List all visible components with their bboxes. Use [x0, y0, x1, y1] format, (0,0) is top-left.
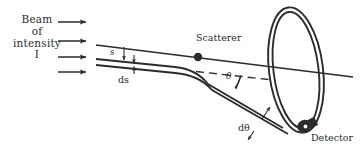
dashed-axis-icon	[196, 72, 273, 81]
scattered-ray-upper	[96, 59, 283, 128]
scattering-angle-differential-label: dθ	[238, 123, 250, 134]
scattering-angle-label: θ	[226, 71, 231, 81]
scatterer-dot-icon	[194, 53, 202, 61]
beam-source-label: Beam of intensity I	[4, 14, 70, 61]
beam-label-line-4: I	[4, 49, 70, 61]
scattering-diagram: Beam of intensity I Scatterer s ds θ dθ …	[0, 0, 362, 160]
detector-label: Detector	[311, 133, 353, 144]
scatterer-label: Scatterer	[196, 33, 241, 44]
impact-parameter-differential-label: ds	[118, 75, 129, 86]
beam-label-line-2: of	[4, 26, 70, 38]
scattering-angle-tick	[236, 76, 241, 90]
impact-parameter-label: s	[110, 48, 114, 58]
beam-label-line-1: Beam	[4, 14, 70, 26]
